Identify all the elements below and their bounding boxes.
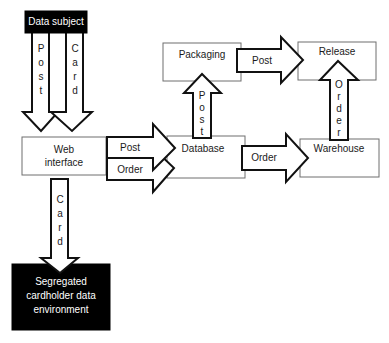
- edge-label-char: O: [335, 79, 343, 90]
- edge-label: Order: [251, 152, 277, 163]
- edge-label: Post: [120, 142, 140, 153]
- edge-label-char: d: [72, 85, 78, 96]
- edge-label-char: a: [72, 57, 78, 68]
- edge-label-char: d: [336, 103, 342, 114]
- node-warehouse: Warehouse: [300, 139, 379, 177]
- edge-label-char: a: [57, 208, 63, 219]
- web-interface-label-line-1: Web: [54, 144, 75, 155]
- node-database: Database: [167, 136, 245, 178]
- cde-label-line-3: environment: [33, 304, 88, 315]
- node-data-subject: Data subject: [25, 11, 87, 33]
- edge-subject-to-web-post: P o s t: [23, 30, 58, 131]
- edge-label-char: o: [199, 102, 205, 113]
- edge-db-to-warehouse-order: Order: [242, 134, 308, 182]
- edge-label-char: C: [71, 43, 78, 54]
- edge-label: Post: [252, 55, 272, 66]
- node-web-interface: Web interface: [22, 137, 106, 175]
- edge-label: Order: [117, 164, 143, 175]
- packaging-label: Packaging: [179, 49, 226, 60]
- warehouse-label: Warehouse: [314, 143, 365, 154]
- edge-label-char: o: [38, 57, 44, 68]
- edge-label-char: s: [200, 114, 205, 125]
- cde-label-line-1: Segregated: [35, 276, 87, 287]
- edge-label-char: d: [57, 236, 63, 247]
- web-interface-label-line-2: interface: [45, 157, 84, 168]
- edge-label-char: e: [336, 115, 342, 126]
- edge-label-char: P: [199, 90, 206, 101]
- edge-label-char: t: [201, 126, 204, 137]
- edge-label-char: s: [39, 71, 44, 82]
- edge-db-to-packaging-post: P o s t: [184, 74, 221, 138]
- edge-label-char: C: [56, 194, 63, 205]
- release-label: Release: [319, 46, 356, 57]
- cde-label-line-2: cardholder data: [26, 290, 96, 301]
- edge-web-to-cde-card: C a r d: [41, 179, 78, 273]
- edge-label-char: P: [38, 43, 45, 54]
- edge-subject-to-web-card: C a r d: [51, 30, 92, 131]
- node-segregated-cde: Segregated cardholder data environment: [12, 264, 110, 330]
- data-flow-diagram: Web interface Packaging Release Database…: [0, 0, 389, 343]
- database-label: Database: [182, 143, 225, 154]
- edge-label-char: t: [40, 85, 43, 96]
- data-subject-label: Data subject: [28, 16, 84, 27]
- edge-packaging-to-release-post: Post: [237, 37, 303, 83]
